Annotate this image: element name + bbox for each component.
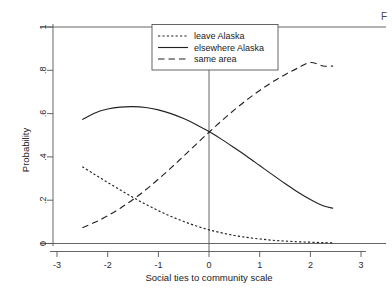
- x-tick-label-6: 3: [358, 260, 363, 270]
- x-axis-title: Social ties to community scale: [145, 272, 272, 283]
- figure-container: 1 .8 .6 .4 .2 0 Probability -3 -2 -1 0 1…: [0, 0, 392, 303]
- y-axis-title: Probability: [20, 128, 31, 173]
- legend: leave Alaska elsewhere Alaska same area: [152, 25, 278, 71]
- y-tick-label-1: .2: [38, 196, 48, 204]
- x-tick-label-4: 1: [257, 260, 262, 270]
- legend-label-0: leave Alaska: [194, 31, 245, 41]
- legend-label-2: same area: [194, 54, 237, 64]
- probability-line-chart: 1 .8 .6 .4 .2 0 Probability -3 -2 -1 0 1…: [0, 0, 392, 303]
- page-corner-mark: F: [381, 11, 387, 22]
- y-tick-label-4: .8: [38, 67, 48, 75]
- y-tick-label-2: .4: [38, 153, 48, 161]
- x-tick-label-2: -1: [154, 260, 162, 270]
- x-tick-label-1: -2: [104, 260, 112, 270]
- x-tick-label-0: -3: [53, 260, 61, 270]
- legend-label-1: elsewhere Alaska: [194, 43, 264, 53]
- x-tick-label-5: 2: [308, 260, 313, 270]
- y-tick-label-0: 0: [38, 241, 48, 246]
- y-tick-label-3: .6: [38, 110, 48, 118]
- x-tick-label-3: 0: [206, 260, 211, 270]
- y-tick-label-5: 1: [38, 24, 48, 29]
